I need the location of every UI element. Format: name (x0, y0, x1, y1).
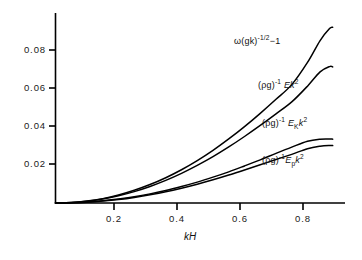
data-curves-group (56, 27, 333, 203)
curve-label-total-symbol: Ek (284, 80, 295, 90)
axes-group (49, 13, 345, 210)
y-tick-label-0.06: 0.06 (4, 82, 46, 93)
curve-EK-k2-label (56, 139, 333, 203)
curve-label-total-energy: (ρg)-1 Ek2 (258, 80, 299, 90)
x-tick-label-0.8: 0.8 (283, 213, 323, 224)
curve-label-potential-power: 2 (300, 153, 304, 160)
curve-label-total-lead: (ρg) (258, 80, 275, 90)
curve-label-kinetic-power: 2 (303, 116, 307, 123)
curve-label-kinetic-lead: (ρg) (262, 118, 279, 128)
curve-label-total-power: 2 (295, 78, 299, 85)
x-tick-label-0.6: 0.6 (220, 213, 260, 224)
figure-container: 0.08 0.06 0.04 0.02 0.2 0.4 0.6 0.8 kH ω… (0, 0, 362, 260)
curve-omega-gk-label (56, 27, 333, 203)
curve-label-total-exponent: -1 (275, 78, 281, 85)
y-tick-label-0.02: 0.02 (4, 158, 46, 169)
x-tick-label-0.4: 0.4 (157, 213, 197, 224)
y-tick-label-0.08: 0.08 (4, 44, 46, 55)
x-tick-label-0.2: 0.2 (94, 213, 134, 224)
curve-label-omega-tail: −1 (270, 36, 281, 46)
curve-label-kinetic-exponent: -1 (279, 116, 285, 123)
curve-label-kinetic-energy: (ρg)-1 EKk2 (262, 118, 307, 128)
y-tick-label-0.04: 0.04 (4, 120, 46, 131)
curve-label-omega-gk: ω(gk)-1/2−1 (234, 36, 280, 46)
curve-label-omega-exponent: -1/2 (258, 34, 270, 41)
curve-label-omega-lead: ω(gk) (234, 36, 258, 46)
x-axis-title: kH (184, 231, 196, 242)
curve-label-potential-energy: (ρg)-1Epk2 (262, 155, 304, 165)
curve-label-potential-lead: (ρg) (262, 155, 279, 165)
